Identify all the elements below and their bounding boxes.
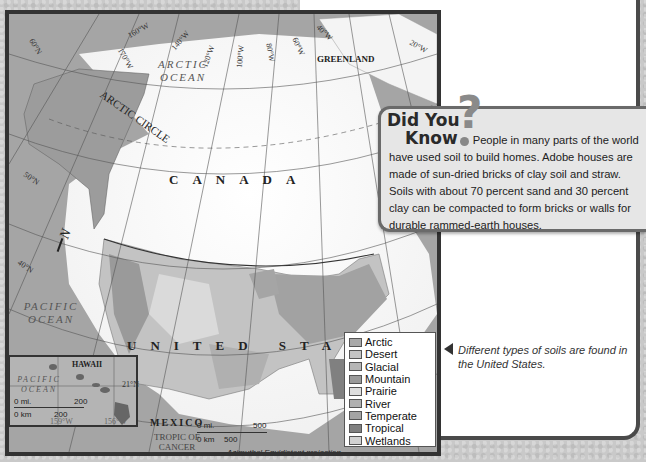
legend-item-prairie: Prairie xyxy=(349,385,431,397)
hawaii-inset: HAWAII PACIFIC OCEAN 21°N 159°W 156°W 0 … xyxy=(8,355,138,427)
did-you-know-title: Did You xyxy=(387,113,460,128)
text-body: world have used soil to build homes. Ado… xyxy=(389,134,639,231)
legend-item-temperate: Temperate xyxy=(349,410,431,422)
legend-label: Desert xyxy=(365,348,397,360)
legend-label: River xyxy=(365,398,391,410)
hawaii-lon-right: 156°W xyxy=(104,417,127,426)
pacific-ocean-label: PACIFIC OCEAN xyxy=(21,300,81,326)
swatch-river xyxy=(349,399,362,408)
did-you-know-box: ? Did You KnowPeople in many parts of th… xyxy=(378,106,646,232)
swatch-mountain xyxy=(349,375,362,384)
legend-item-wetlands: Wetlands xyxy=(349,434,431,446)
legend-item-arctic: Arctic xyxy=(349,336,431,348)
legend-label: Wetlands xyxy=(365,435,411,447)
title-line-2: Know xyxy=(405,128,458,148)
arctic-ocean-label: ARCTIC OCEAN xyxy=(143,58,223,84)
scale-mi-value: 500 xyxy=(253,421,266,430)
legend-item-tropical: Tropical xyxy=(349,422,431,434)
hawaii-scale-mi-zero: 0 mi. xyxy=(14,397,31,406)
scale-mi-zero: 0 mi. xyxy=(197,421,214,430)
swatch-desert xyxy=(349,350,362,359)
scale-km-zero: 0 km xyxy=(197,435,214,444)
legend-label: Temperate xyxy=(365,410,417,422)
text-first-line: People in many parts of the xyxy=(473,134,609,146)
swatch-glacial xyxy=(349,362,362,371)
legend-label: Mountain xyxy=(365,373,410,385)
bullet-dot-icon xyxy=(460,137,469,146)
projection-label: Azimuthal Equidistant projection xyxy=(227,448,341,456)
hawaii-scale-km-zero: 0 km xyxy=(14,410,31,419)
map-caption: Different types of soils are found in th… xyxy=(458,343,638,371)
swatch-arctic xyxy=(349,338,362,347)
hawaii-lat-label: 21°N xyxy=(122,380,139,389)
scale-bar xyxy=(197,432,267,433)
did-you-know-text: KnowPeople in many parts of the world ha… xyxy=(389,130,645,234)
swatch-tropical xyxy=(349,424,362,433)
legend-label: Glacial xyxy=(365,361,399,373)
legend-label: Prairie xyxy=(365,385,397,397)
legend-item-desert: Desert xyxy=(349,348,431,360)
canada-label: CANADA xyxy=(169,172,309,188)
legend-item-mountain: Mountain xyxy=(349,373,431,385)
greenland-label: GREENLAND xyxy=(317,54,375,64)
swatch-wetlands xyxy=(349,436,362,445)
legend-label: Tropical xyxy=(365,422,404,434)
hawaii-scale-bar xyxy=(14,407,84,408)
legend-item-glacial: Glacial xyxy=(349,361,431,373)
hawaii-title: HAWAII xyxy=(72,360,102,369)
swatch-temperate xyxy=(349,411,362,420)
title-line-1: Did You xyxy=(387,113,460,128)
map-legend: Arctic Desert Glacial Mountain Prairie R… xyxy=(344,332,436,447)
legend-label: Arctic xyxy=(365,336,393,348)
swatch-prairie xyxy=(349,387,362,396)
legend-item-river: River xyxy=(349,397,431,409)
hawaii-scale-mi-value: 200 xyxy=(74,397,87,406)
caption-pointer-icon xyxy=(444,343,453,355)
scale-km-value: 500 xyxy=(224,435,237,444)
hawaii-ocean-label: PACIFIC OCEAN xyxy=(14,375,64,395)
hawaii-scale-km-value: 200 xyxy=(54,410,67,419)
